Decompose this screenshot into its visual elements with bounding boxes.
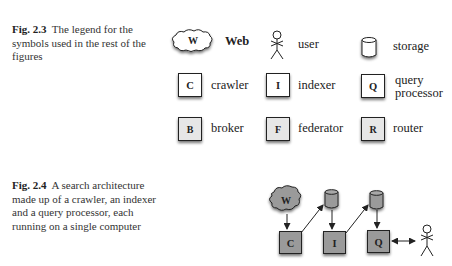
legend-label-storage: storage [393,40,429,53]
legend-label-router: router [393,122,423,135]
legend-label-broker: broker [211,122,244,135]
broker-letter: B [187,124,194,135]
indexer-node-letter: I [332,238,336,249]
legend-label-crawler: crawler [211,79,248,92]
cloud-letter: W [188,35,198,46]
crawler-letter: C [186,80,194,91]
legend-label-query-processor: query processor [395,74,443,100]
storage-icon [362,38,376,58]
indexer-letter: I [276,80,280,91]
legend-label-web: Web [225,35,249,48]
storage-icon [370,191,383,209]
legend-label-indexer: indexer [298,79,335,92]
crawler-node-letter: C [287,238,295,249]
storage-icon [325,190,338,208]
label-line: processor [395,87,443,100]
legend-label-federator: federator [298,122,343,135]
query-processor-letter: Q [369,81,377,92]
edge-indexer-to-storage [346,205,368,233]
user-icon [421,225,433,256]
web-cloud-letter: W [281,195,291,206]
query-processor-node-letter: Q [374,237,382,248]
user-icon [271,31,283,59]
edge-crawler-to-storage [301,205,323,233]
federator-letter: F [275,124,281,135]
legend-label-user: user [298,38,319,51]
router-letter: R [369,124,377,135]
